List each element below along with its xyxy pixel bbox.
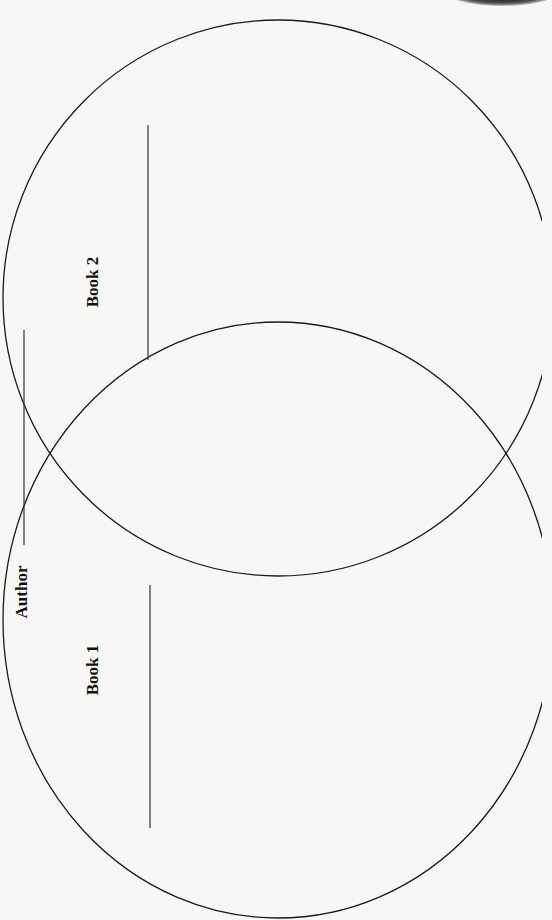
book2-label: Book 2 xyxy=(83,257,103,308)
book1-circle xyxy=(3,322,542,918)
author-label: Author xyxy=(12,566,32,619)
book1-label: Book 1 xyxy=(83,645,103,696)
